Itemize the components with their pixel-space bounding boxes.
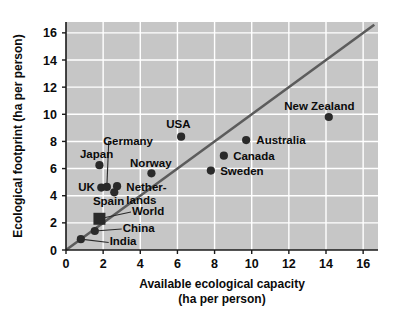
point-label-netherlands: lands: [126, 194, 156, 206]
data-point-marker: [242, 136, 250, 144]
point-label-sweden: Sweden: [220, 165, 263, 177]
point-label-china: China: [123, 222, 156, 234]
point-label-uk: UK: [78, 181, 95, 193]
point-label-japan: Japan: [80, 148, 113, 160]
x-axis-title-line2: (ha per person): [178, 292, 265, 306]
data-point-marker: [325, 113, 333, 121]
x-tick-label: 2: [100, 257, 107, 271]
y-tick-label: 6: [50, 162, 57, 176]
chart-svg: 0246810121416 0246810121416 IndiaChinaWo…: [0, 0, 395, 324]
point-label-netherlands: Nether-: [126, 181, 166, 193]
y-tick-label: 2: [50, 216, 57, 230]
scatter-chart-figure: 0246810121416 0246810121416 IndiaChinaWo…: [0, 0, 395, 324]
x-tick-label: 14: [319, 257, 333, 271]
point-label-india: India: [110, 235, 137, 247]
data-point-marker: [220, 152, 228, 160]
data-point-marker: [207, 167, 215, 175]
point-label-canada: Canada: [233, 150, 275, 162]
y-tick-label: 0: [50, 244, 57, 258]
data-point-marker: [113, 182, 121, 190]
data-point-marker: [95, 161, 103, 169]
y-tick-labels: 0246810121416: [43, 26, 57, 257]
y-tick-label: 16: [43, 26, 57, 40]
x-tick-label: 4: [137, 257, 144, 271]
point-label-germany: Germany: [103, 135, 153, 147]
data-point-marker: [93, 213, 105, 225]
x-axis-title-line1: Available ecological capacity: [139, 277, 305, 291]
y-tick-label: 8: [50, 135, 57, 149]
point-label-new-zealand: New Zealand: [284, 100, 354, 112]
y-axis-title: Ecological footprint (ha per person): [11, 34, 25, 237]
x-tick-labels: 0246810121416: [63, 257, 371, 271]
data-point-marker: [103, 183, 111, 191]
y-tick-label: 4: [50, 189, 57, 203]
data-point-marker: [91, 227, 99, 235]
x-tick-label: 10: [245, 257, 259, 271]
x-tick-label: 6: [174, 257, 181, 271]
y-tick-label: 12: [43, 81, 57, 95]
x-tick-label: 0: [63, 257, 70, 271]
point-label-australia: Australia: [256, 134, 306, 146]
x-tick-label: 12: [282, 257, 296, 271]
point-label-usa: USA: [166, 118, 190, 130]
data-point-marker: [177, 133, 185, 141]
y-tick-label: 14: [43, 54, 57, 68]
data-point-marker: [77, 235, 85, 243]
data-point-marker: [147, 169, 155, 177]
y-tick-label: 10: [43, 108, 57, 122]
point-label-world: World: [132, 205, 164, 217]
point-label-norway: Norway: [130, 157, 172, 169]
point-label-spain: Spain: [93, 195, 124, 207]
x-tick-label: 16: [356, 257, 370, 271]
x-tick-label: 8: [211, 257, 218, 271]
